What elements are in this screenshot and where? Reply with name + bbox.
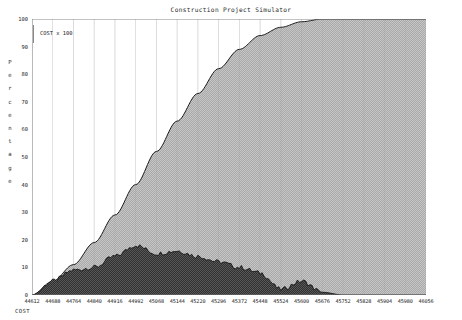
x-axis-tick-label: 45676: [315, 298, 330, 304]
plot-area: [32, 19, 426, 295]
y-axis-tick-label: 10: [6, 264, 28, 270]
x-axis-tick-label: 45448: [253, 298, 268, 304]
x-axis-tick-label: 45828: [356, 298, 371, 304]
y-axis-tick-label: 100: [6, 16, 28, 22]
y-axis-label-char: e: [8, 109, 11, 122]
footer-caption: COST: [15, 308, 30, 314]
chart-window: Construction Project Simulator Percentag…: [0, 0, 462, 320]
y-axis-tick-label: 50: [6, 154, 28, 160]
x-axis-tick-label: 44764: [66, 298, 81, 304]
cumulative-cost-area: [32, 19, 426, 295]
x-axis-tick-label: 44840: [87, 298, 102, 304]
chart-canvas: [32, 19, 426, 295]
x-axis-tick-label: 45904: [377, 298, 392, 304]
x-axis-tick-label: 45372: [232, 298, 247, 304]
x-axis-tick-label: 45144: [170, 298, 185, 304]
y-axis-label-char: r: [8, 82, 11, 95]
y-axis-label-char: t: [8, 135, 11, 148]
x-axis-tick-label: 44916: [107, 298, 122, 304]
x-axis-tick-label: 45068: [149, 298, 164, 304]
x-axis-tick-label: 45600: [294, 298, 309, 304]
x-axis-tick-label: 44688: [45, 298, 60, 304]
x-axis-tick-label: 45524: [273, 298, 288, 304]
y-axis-tick-label: 60: [6, 126, 28, 132]
x-axis-tick-label: 45752: [336, 298, 351, 304]
legend-entry-cost: COST x 100: [40, 30, 72, 36]
y-axis-tick-label: 20: [6, 237, 28, 243]
y-axis-tick-label: 40: [6, 182, 28, 188]
x-axis-tick-label: 44612: [24, 298, 39, 304]
x-axis-tick-label: 45296: [211, 298, 226, 304]
y-axis-label-char: g: [8, 162, 11, 175]
x-axis-tick-label: 46056: [418, 298, 433, 304]
x-axis-tick-label: 44992: [128, 298, 143, 304]
page-title: Construction Project Simulator: [0, 6, 462, 13]
y-axis-tick-label: 90: [6, 44, 28, 50]
x-axis-tick-label: 45980: [398, 298, 413, 304]
y-axis-tick-label: 70: [6, 99, 28, 105]
x-axis-tick-label: 45220: [190, 298, 205, 304]
y-axis-tick-label: 30: [6, 209, 28, 215]
y-axis-label-char: P: [8, 56, 11, 69]
y-axis-tick-label: 80: [6, 71, 28, 77]
